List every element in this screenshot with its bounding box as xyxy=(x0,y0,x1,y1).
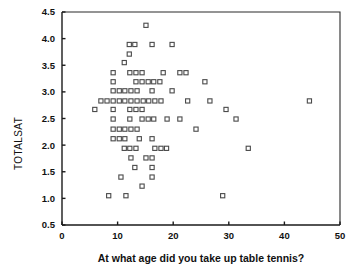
data-point xyxy=(128,146,132,150)
x-tick-label: 50 xyxy=(335,230,346,241)
data-point xyxy=(127,42,131,46)
data-point xyxy=(129,99,133,103)
scatter-chart: 01020304050 0.51.01.52.02.53.03.54.04.5 … xyxy=(0,0,354,271)
data-point xyxy=(134,107,138,111)
data-point xyxy=(152,80,156,84)
data-point xyxy=(146,80,150,84)
data-point xyxy=(111,80,115,84)
data-point xyxy=(144,23,148,27)
data-point xyxy=(150,165,154,169)
y-tick-label: 4.0 xyxy=(42,33,55,44)
x-tick-label: 30 xyxy=(224,230,235,241)
data-point xyxy=(178,117,182,121)
data-point xyxy=(221,194,225,198)
data-point xyxy=(178,71,182,75)
data-point xyxy=(140,71,144,75)
data-point xyxy=(128,107,132,111)
data-point xyxy=(122,60,126,64)
data-point xyxy=(134,146,138,150)
data-point xyxy=(111,117,115,121)
data-point xyxy=(158,80,162,84)
x-tick-label: 20 xyxy=(168,230,179,241)
data-point xyxy=(134,71,138,75)
x-tick-label: 40 xyxy=(279,230,290,241)
data-point xyxy=(117,89,121,93)
data-point xyxy=(129,156,133,160)
data-point xyxy=(127,52,131,56)
data-point xyxy=(170,42,174,46)
x-axis-label: At what age did you take up table tennis… xyxy=(98,252,305,264)
data-point xyxy=(123,137,127,141)
data-point xyxy=(164,146,168,150)
data-point xyxy=(99,99,103,103)
data-point xyxy=(150,137,154,141)
data-point xyxy=(119,175,123,179)
data-point xyxy=(135,89,139,93)
x-axis-tick-labels: 01020304050 xyxy=(59,230,345,241)
data-point xyxy=(129,127,133,131)
data-point xyxy=(147,99,151,103)
data-point xyxy=(150,156,154,160)
data-point xyxy=(141,99,145,103)
data-point xyxy=(111,127,115,131)
data-point xyxy=(246,146,250,150)
data-point xyxy=(117,137,121,141)
y-tick-label: 4.5 xyxy=(42,6,56,17)
data-point xyxy=(134,80,138,84)
data-point xyxy=(129,89,133,93)
data-point xyxy=(111,89,115,93)
data-point xyxy=(224,107,228,111)
y-tick-label: 1.5 xyxy=(42,166,56,177)
data-point xyxy=(111,137,115,141)
data-point xyxy=(111,71,115,75)
data-point xyxy=(140,107,144,111)
data-point xyxy=(159,146,163,150)
data-point xyxy=(111,99,115,103)
y-tick-label: 0.5 xyxy=(42,219,56,230)
data-point xyxy=(144,156,148,160)
data-point xyxy=(234,117,238,121)
data-point xyxy=(203,80,207,84)
data-point xyxy=(133,42,137,46)
data-point xyxy=(93,107,97,111)
y-axis-label: TOTALSAT xyxy=(13,117,24,170)
data-point xyxy=(133,165,137,169)
data-point xyxy=(140,117,144,121)
y-tick-label: 3.0 xyxy=(42,86,55,97)
data-point xyxy=(140,184,144,188)
data-point xyxy=(137,137,141,141)
data-point xyxy=(128,71,132,75)
data-point xyxy=(150,175,154,179)
data-point xyxy=(159,99,163,103)
data-point xyxy=(117,127,121,131)
data-point xyxy=(170,89,174,93)
data-point xyxy=(111,107,115,111)
data-point xyxy=(307,99,311,103)
data-point xyxy=(150,89,154,93)
data-point xyxy=(165,117,169,121)
data-point xyxy=(153,99,157,103)
data-point xyxy=(128,117,132,121)
data-point xyxy=(150,42,154,46)
data-points xyxy=(93,23,312,198)
data-point xyxy=(107,194,111,198)
y-axis-tick-labels: 0.51.01.52.02.53.03.54.04.5 xyxy=(42,6,56,230)
data-point xyxy=(123,127,127,131)
data-point xyxy=(135,127,139,131)
data-point xyxy=(117,99,121,103)
data-point xyxy=(123,99,127,103)
y-tick-label: 2.5 xyxy=(42,113,56,124)
data-point xyxy=(184,71,188,75)
plot-frame xyxy=(62,12,340,225)
data-point xyxy=(161,71,165,75)
data-point xyxy=(124,194,128,198)
chart-canvas: 01020304050 0.51.01.52.02.53.03.54.04.5 … xyxy=(0,0,354,271)
y-tick-label: 1.0 xyxy=(42,193,55,204)
data-point xyxy=(186,99,190,103)
data-point xyxy=(146,117,150,121)
data-point xyxy=(140,80,144,84)
data-point xyxy=(135,99,139,103)
y-tick-label: 3.5 xyxy=(42,60,56,71)
data-point xyxy=(153,146,157,150)
x-tick-label: 10 xyxy=(112,230,123,241)
